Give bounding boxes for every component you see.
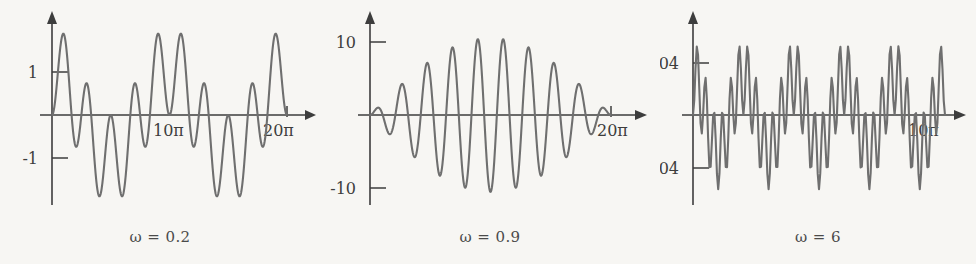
x-axis-label-mid: 10π — [153, 121, 184, 140]
panel-caption-omega-6: ω = 6 — [660, 228, 976, 246]
axes-omega-6 — [682, 11, 966, 205]
y-axis-arrowhead — [365, 11, 375, 24]
chart-panel-omega-0-2: 1 -1 10π 20π ω = 0.2 — [0, 0, 320, 264]
plot-area-omega-6: 0.04 -0.04 10π — [660, 0, 976, 224]
panel-caption-omega-0-2: ω = 0.2 — [0, 228, 320, 246]
y-axis-arrowhead — [688, 11, 698, 24]
y-axis-label-upper: 0.04 — [660, 54, 679, 73]
y-axis-label-upper: 10 — [336, 33, 356, 52]
x-axis-arrowhead — [954, 110, 966, 120]
response-curve-omega-6 — [693, 46, 945, 189]
x-axis-arrowhead — [305, 110, 316, 120]
plot-area-omega-0-2: 1 -1 10π 20π — [0, 0, 320, 224]
plot-area-omega-0-9: 10 -10 20π — [320, 0, 660, 224]
x-axis-label-end: 20π — [597, 121, 628, 140]
panel-caption-omega-0-9: ω = 0.9 — [320, 228, 660, 246]
y-axis-label-upper: 1 — [28, 63, 38, 82]
x-axis-arrowhead — [635, 110, 647, 120]
figure-three-oscillator-responses: 1 -1 10π 20π ω = 0.2 10 -10 20π ω = 0.9 — [0, 0, 976, 264]
y-axis-label-lower: -10 — [330, 179, 356, 198]
y-axis-arrowhead — [47, 11, 57, 24]
chart-panel-omega-6: 0.04 -0.04 10π ω = 6 — [660, 0, 976, 264]
y-axis-label-lower: -0.04 — [660, 159, 679, 178]
y-axis-label-lower: -1 — [22, 149, 38, 168]
chart-panel-omega-0-9: 10 -10 20π ω = 0.9 — [320, 0, 660, 264]
